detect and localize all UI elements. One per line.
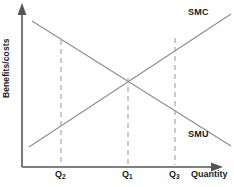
- curve-label-smu: SMU: [188, 130, 209, 139]
- x-tick-q1-base: Q: [122, 169, 129, 179]
- y-axis: [18, 3, 27, 167]
- x-tick-q3-sub: 3: [176, 173, 180, 180]
- y-axis-arrow-icon: [18, 3, 27, 15]
- x-tick-q1-sub: 1: [129, 173, 133, 180]
- chart-plot-area: [0, 0, 234, 187]
- x-tick-q2-base: Q: [55, 169, 62, 179]
- y-axis-label: Benefits/costs: [0, 4, 14, 100]
- y-axis-label-text: Benefits/costs: [2, 38, 11, 98]
- x-tick-q3-base: Q: [169, 169, 176, 179]
- curve-smu: [32, 21, 231, 146]
- x-tick-label-q1: Q1: [122, 170, 133, 179]
- curve-label-smc: SMC: [188, 8, 209, 17]
- chart-figure: Benefits/costs Quantity SMC SMU Q2 Q1 Q3: [0, 0, 234, 187]
- x-tick-label-q2: Q2: [55, 170, 66, 179]
- x-tick-q2-sub: 2: [62, 173, 66, 180]
- x-axis-label: Quantity: [191, 170, 228, 179]
- x-tick-label-q3: Q3: [169, 170, 180, 179]
